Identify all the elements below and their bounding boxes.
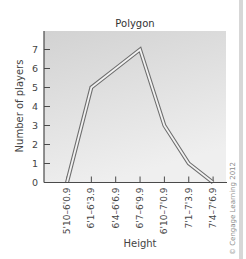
y-tick-label: 4 bbox=[32, 101, 38, 112]
copyright-notice: © Cengage Learning 2012 bbox=[229, 162, 237, 255]
y-axis-label: Number of players bbox=[14, 60, 25, 153]
x-tick-label: 6'10–7'0.9 bbox=[159, 187, 169, 234]
x-tick-label: 6'1–6'3.9 bbox=[86, 187, 96, 228]
y-tick-label: 7 bbox=[32, 44, 38, 55]
polygon-chart: Polygon 01234567 5'10–6'0.96'1–6'3.96'4–… bbox=[0, 0, 246, 259]
x-tick-label: 7'4–7'6.9 bbox=[208, 187, 218, 228]
y-tick-label: 6 bbox=[32, 63, 38, 74]
x-axis-ticks: 5'10–6'0.96'1–6'3.96'4–6'6.96'7–6'9.96'1… bbox=[62, 177, 218, 235]
y-tick-label: 3 bbox=[32, 120, 38, 131]
x-tick-label: 5'10–6'0.9 bbox=[62, 187, 72, 234]
y-tick-label: 2 bbox=[32, 139, 38, 150]
x-axis-label: Height bbox=[123, 238, 156, 249]
x-tick-label: 6'7–6'9.9 bbox=[135, 187, 145, 228]
chart-title: Polygon bbox=[115, 18, 154, 29]
x-tick-label: 6'4–6'6.9 bbox=[111, 187, 121, 228]
y-tick-label: 0 bbox=[32, 177, 38, 188]
page-edge-bar bbox=[239, 0, 243, 259]
y-tick-label: 1 bbox=[32, 158, 38, 169]
x-tick-label: 7'1–7'3.9 bbox=[184, 187, 194, 228]
y-tick-label: 5 bbox=[32, 82, 38, 93]
